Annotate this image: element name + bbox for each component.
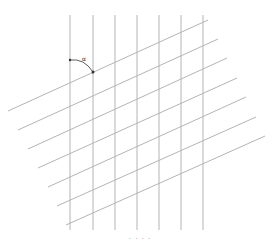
diagonal-line [8,20,208,111]
marker-dot [69,59,71,61]
diagonal-line [18,39,218,130]
vertical-lines [70,15,203,230]
skewed-grid-diagram: α [0,0,280,248]
figure-caption: · · · · [0,235,280,243]
diagonal-line [48,97,246,187]
diagonal-line [66,136,265,225]
diagonal-line [57,117,256,206]
angle-marker: α [69,55,95,74]
diagonal-line [28,58,227,149]
marker-dot [92,71,95,74]
angle-label: α [82,55,86,62]
